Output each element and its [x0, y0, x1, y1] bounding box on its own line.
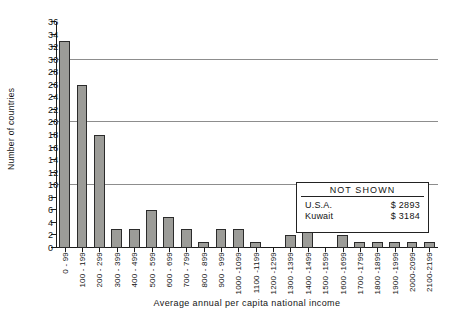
bar-chart: Number of countries 02468101214161820222… — [0, 0, 454, 319]
x-tick-label: 1100 -1199 — [252, 252, 261, 293]
bar-slot — [146, 22, 157, 248]
bar — [77, 85, 88, 248]
annotation-row-kuwait: Kuwait $ 3184 — [297, 210, 428, 221]
bar-slot — [129, 22, 140, 248]
x-tick-label: 1600 -1699 — [339, 252, 348, 294]
bar-slot — [94, 22, 105, 248]
x-axis-title: Average annual per capita national incom… — [56, 298, 438, 308]
bar-slot — [111, 22, 122, 248]
bar-slot — [285, 22, 296, 248]
bar — [146, 210, 157, 248]
annotation-label-usa: U.S.A. — [305, 200, 332, 210]
bar-slot — [163, 22, 174, 248]
x-tick-label: 500 - 599 — [148, 252, 157, 288]
annotation-divider — [301, 196, 424, 197]
bar — [111, 229, 122, 248]
annotation-label-kuwait: Kuwait — [305, 211, 333, 221]
bar-slot — [250, 22, 261, 248]
annotation-amount-kuwait: $ 3184 — [391, 211, 420, 221]
bar-slot — [198, 22, 209, 248]
y-axis-title: Number of countries — [2, 44, 20, 214]
x-tick-label: 300 - 399 — [113, 252, 122, 288]
bar-slot — [233, 22, 244, 248]
x-tick-label: 900 - 999 — [217, 252, 226, 288]
x-tick-label: 1900 -1999 — [391, 252, 400, 294]
x-tick-label: 700 - 799 — [182, 252, 191, 288]
x-tick-label: 600 - 699 — [165, 252, 174, 288]
x-axis-tick-labels: 0 - 99100 - 199200 - 299300 - 399400 - 4… — [56, 252, 438, 296]
x-tick-label: 1800 -1899 — [373, 252, 382, 294]
bar — [181, 229, 192, 248]
bar — [163, 217, 174, 248]
x-tick-label: 1500 -1599 — [321, 252, 330, 294]
bar-slot — [77, 22, 88, 248]
annotation-title: NOT SHOWN — [297, 185, 428, 196]
x-tick-label: 0 - 99 — [61, 252, 70, 274]
bar — [59, 41, 70, 248]
bar — [129, 229, 140, 248]
x-tick-label: 1300 -1399 — [286, 252, 295, 294]
x-tick-label: 800 - 899 — [200, 252, 209, 288]
x-tick-label: 1000 -1099 — [234, 252, 243, 294]
x-tick-label: 400 - 499 — [130, 252, 139, 288]
bar — [216, 229, 227, 248]
x-tick-label: 2000-2099 — [408, 252, 417, 292]
x-tick-label: 1400 -1499 — [304, 252, 313, 294]
bar-slot — [181, 22, 192, 248]
bar — [337, 235, 348, 248]
annotation-row-usa: U.S.A. $ 2893 — [297, 199, 428, 210]
x-tick-label: 2100-2199 — [425, 252, 434, 292]
bar-slot — [268, 22, 279, 248]
bar — [233, 229, 244, 248]
bar — [94, 135, 105, 248]
not-shown-annotation-box: NOT SHOWN U.S.A. $ 2893 Kuwait $ 3184 — [296, 182, 429, 233]
x-tick-label: 200 - 299 — [95, 252, 104, 288]
bar-slot — [216, 22, 227, 248]
x-tick-label: 1700 -1799 — [356, 252, 365, 294]
bar-slot — [59, 22, 70, 248]
annotation-amount-usa: $ 2893 — [391, 200, 420, 210]
x-tick-label: 100 - 199 — [78, 252, 87, 288]
x-tick-label: 1200 -1299 — [269, 252, 278, 294]
bar — [285, 235, 296, 248]
